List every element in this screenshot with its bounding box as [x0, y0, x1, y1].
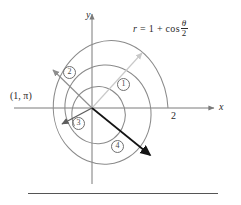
- axis-group: [14, 14, 214, 184]
- equation-rhs: 1 + cos: [149, 23, 180, 34]
- equation-label: r = 1 + cosθ2: [133, 19, 188, 38]
- equation-lhs: r: [133, 23, 137, 34]
- bottom-divider: [28, 193, 218, 194]
- marker-3: 3: [72, 117, 85, 130]
- x-tick-label-2: 2: [171, 111, 176, 121]
- polar-curve-figure: [0, 0, 241, 205]
- y-axis-label: y: [86, 10, 90, 20]
- marker-4: 4: [111, 140, 124, 153]
- curve-inner-loop: [72, 87, 125, 144]
- point-label-1-pi: (1, π): [10, 91, 32, 101]
- marker-1: 1: [117, 78, 130, 91]
- x-axis-label: x: [219, 102, 223, 112]
- equation-fraction: θ2: [181, 19, 188, 38]
- fraction-denominator: 2: [181, 29, 188, 38]
- equation-equals: =: [140, 23, 146, 34]
- marker-2: 2: [63, 66, 76, 79]
